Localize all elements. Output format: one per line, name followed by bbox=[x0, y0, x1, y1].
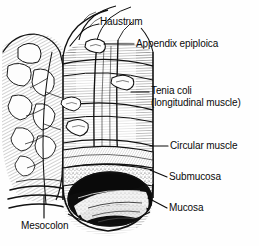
label-haustrum: Haustrum bbox=[100, 16, 143, 28]
label-mesocolon: Mesocolon bbox=[21, 220, 68, 232]
label-tenia-coli-line2: (longitudinal muscle) bbox=[151, 97, 241, 109]
label-mucosa: Mucosa bbox=[169, 202, 203, 214]
label-circular-muscle: Circular muscle bbox=[170, 140, 237, 152]
label-tenia-coli-line1: Tenia coli bbox=[151, 85, 241, 97]
colon-illustration bbox=[0, 0, 259, 246]
label-submucosa: Submucosa bbox=[169, 171, 221, 183]
label-tenia-coli: Tenia coli (longitudinal muscle) bbox=[151, 85, 241, 108]
anatomy-figure: Haustrum Appendix epiploica Tenia coli (… bbox=[0, 0, 259, 246]
label-appendix-epiploica: Appendix epiploica bbox=[136, 38, 218, 50]
